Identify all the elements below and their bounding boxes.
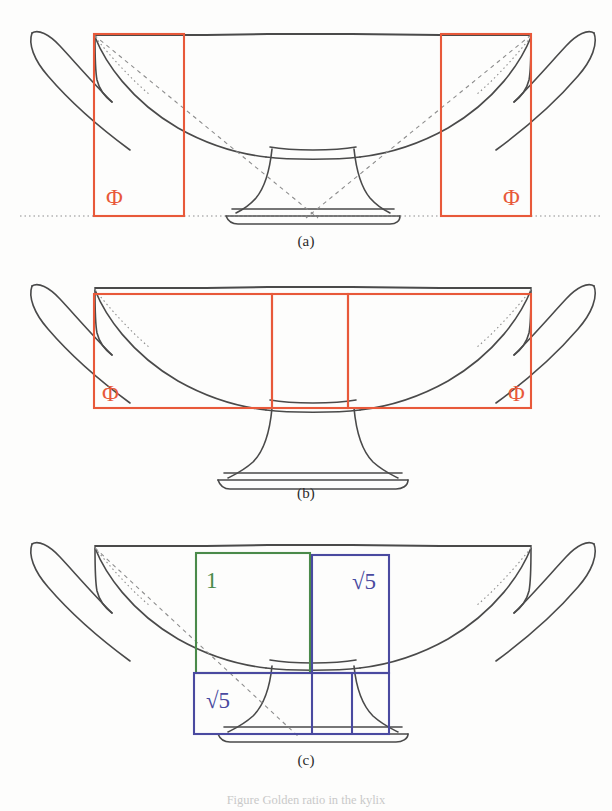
stem-top-band [270,400,356,403]
stem-left-curve [228,408,272,478]
center-rectangle [272,294,348,408]
left-phi-rectangle [94,294,272,408]
root5-label-upper: √5 [352,569,376,594]
panel-b-label: (b) [0,485,612,502]
bowl-left-wall [95,37,266,157]
phi-label-right: Φ [508,381,525,406]
bowl-interior-base [266,410,360,412]
left-handle-outer-stroke [31,33,130,150]
left-dotted-inner [95,548,150,606]
left-dotted-inner [95,290,150,348]
right-phi-rectangle [348,294,531,408]
panel-b: Φ Φ [0,258,612,510]
right-handle-outer-stroke [496,544,595,661]
stem-left-curve [236,149,272,213]
foot-bottom-line [226,216,400,224]
stem-top-band [270,147,356,150]
panel-c-drawing: 1 √5 √5 [0,510,612,780]
panel-a-label: (a) [0,233,612,250]
foot-bottom-line [218,734,408,742]
bowl-left-wall [95,548,266,668]
panel-a-drawing: Φ Φ [0,0,612,258]
panel-a: Φ Φ [0,0,612,258]
root5-rectangle-upper-blue [312,555,389,673]
right-dotted-inner [476,548,531,606]
stem-right-curve [354,408,398,478]
right-dotted-inner [476,290,531,348]
figure-page: Φ Φ (a) [0,0,612,811]
panel-b-drawing: Φ Φ [0,258,612,510]
figure-caption: Figure Golden ratio in the kylix [0,793,612,808]
diagonal-left-guide [94,35,318,218]
diagonal-right-guide [306,35,531,218]
phi-label-left: Φ [106,185,123,210]
left-handle-inner-stroke [32,285,112,355]
unit-label-one: 1 [206,568,218,593]
right-handle-inner-stroke [514,543,594,613]
stem-right-curve [354,666,398,732]
bowl-left-wall [95,290,266,410]
right-dotted-inner [476,37,531,95]
bowl-right-wall [360,37,531,157]
stem-right-curve [354,149,390,213]
right-handle-inner-stroke [514,285,594,355]
bowl-right-wall [360,548,531,668]
right-handle-outer-stroke [496,33,595,150]
panel-c-label: (c) [0,752,612,769]
phi-label-right: Φ [503,185,520,210]
left-handle-inner-stroke [32,543,112,613]
bowl-rim-line [95,287,531,288]
root5-label-lower: √5 [206,688,230,713]
bowl-right-wall [360,290,531,410]
left-handle-outer-stroke [31,544,130,661]
panel-c: 1 √5 √5 [0,510,612,780]
phi-label-left: Φ [102,381,119,406]
stem-left-curve [228,666,272,732]
right-handle-inner-stroke [514,32,594,102]
left-handle-inner-stroke [32,32,112,102]
bowl-interior-base [266,157,360,159]
left-dotted-inner [95,37,150,95]
diagonal-dashed-guide [95,548,300,738]
bowl-rim-line [95,545,531,546]
